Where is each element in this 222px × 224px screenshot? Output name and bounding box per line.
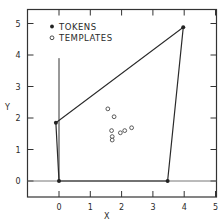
legend-templates-marker [50,36,54,40]
y-axis-label: Y [4,103,10,112]
y-tick-label: 1 [16,146,21,155]
legend-tokens-marker [50,25,54,29]
y-tick-label: 5 [16,20,21,29]
template-point [106,107,110,111]
tokens-points [54,25,185,183]
legend-templates-label: TEMPLATES [58,33,113,43]
template-point [123,129,127,133]
y-tick-label: 4 [16,51,21,60]
legend-tokens-label: TOKENS [58,22,97,32]
plot-frame [28,10,217,198]
x-tick-label: 0 [57,203,62,212]
legend: TOKENS TEMPLATES [50,22,112,44]
tokens-polygon [56,27,183,181]
template-point [118,131,122,135]
x-tick-label: 2 [119,203,124,212]
x-tick-label: 5 [213,203,218,212]
templates-points [106,107,134,142]
token-point [54,121,58,125]
template-point [130,126,134,130]
y-tick-label: 2 [16,114,21,123]
tokens-hull [56,27,183,181]
tick-labels: 012345012345 [16,20,219,213]
template-point [112,115,116,119]
x-axis-label: X [104,212,110,221]
x-tick-label: 4 [182,203,187,212]
y-tick-label: 0 [16,177,21,186]
token-point [57,179,61,183]
template-point [110,138,114,142]
x-tick-label: 1 [88,203,93,212]
scatter-chart: 012345012345 TOKENS TEMPLATES X Y [0,0,222,224]
reference-lines [28,58,217,181]
template-point [110,129,114,133]
axis-ticks [28,10,217,198]
y-tick-label: 3 [16,83,21,92]
token-point [166,179,170,183]
token-point [181,25,185,29]
x-tick-label: 3 [150,203,155,212]
